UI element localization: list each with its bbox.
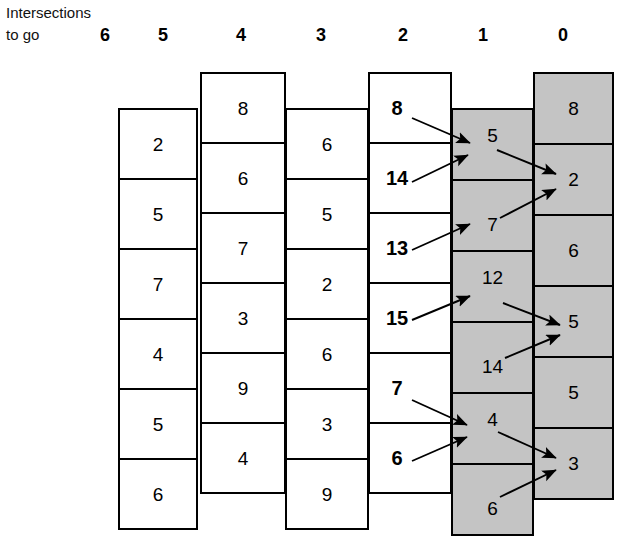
column-5-value-5: 6 <box>153 485 164 504</box>
column-4-cell-0[interactable]: 8 <box>200 72 286 144</box>
column-header-0: 0 <box>550 24 576 46</box>
column-0-value-3: 5 <box>568 312 579 331</box>
column-3: 652639 <box>285 108 369 528</box>
column-1-cell-5[interactable]: 6 <box>451 463 534 536</box>
column-3-value-4: 3 <box>322 415 333 434</box>
column-0-cell-3[interactable]: 5 <box>533 285 614 358</box>
column-2-cell-5[interactable]: 6 <box>368 422 452 494</box>
column-4-value-4: 9 <box>238 379 249 398</box>
column-3-value-2: 2 <box>322 275 333 294</box>
column-1-value-0: 5 <box>487 126 498 145</box>
column-header-6: 6 <box>92 24 118 46</box>
column-0-cell-0[interactable]: 8 <box>533 72 614 145</box>
column-5-value-3: 4 <box>153 345 164 364</box>
column-3-cell-5[interactable]: 9 <box>285 458 369 530</box>
column-0-cell-4[interactable]: 5 <box>533 356 614 429</box>
column-5-value-2: 7 <box>153 275 164 294</box>
column-5-cell-5[interactable]: 6 <box>118 458 198 530</box>
column-0-cell-1[interactable]: 2 <box>533 143 614 216</box>
column-5-value-4: 5 <box>153 415 164 434</box>
column-2-value-0: 8 <box>391 99 402 118</box>
column-1-cell-4[interactable]: 4 <box>451 392 534 465</box>
column-1-value-4: 4 <box>487 410 498 429</box>
column-4-value-1: 6 <box>238 169 249 188</box>
column-5-cell-1[interactable]: 5 <box>118 178 198 250</box>
column-2-value-4: 7 <box>391 379 402 398</box>
column-4: 867394 <box>200 72 286 492</box>
column-5-cell-3[interactable]: 4 <box>118 318 198 390</box>
column-header-3: 3 <box>308 24 334 46</box>
column-2-value-3: 15 <box>386 309 408 328</box>
column-4-value-5: 4 <box>238 449 249 468</box>
column-0-value-1: 2 <box>568 170 579 189</box>
column-4-cell-3[interactable]: 3 <box>200 282 286 354</box>
column-5-value-0: 2 <box>153 135 164 154</box>
diagram-canvas: Intersections to go 6543210 257456867394… <box>0 0 619 551</box>
column-2-value-2: 13 <box>386 239 408 258</box>
column-1: 57121446 <box>451 108 534 534</box>
column-2-cell-1[interactable]: 14 <box>368 142 452 214</box>
column-1-value-5: 6 <box>487 499 498 518</box>
column-0: 826553 <box>533 72 614 498</box>
column-header-4: 4 <box>228 24 254 46</box>
column-1-value-3: 14 <box>482 357 503 376</box>
column-3-value-1: 5 <box>322 205 333 224</box>
column-1-cell-2[interactable]: 12 <box>451 250 534 323</box>
column-1-cell-3[interactable]: 14 <box>451 321 534 394</box>
column-2-cell-0[interactable]: 8 <box>368 72 452 144</box>
column-2-cell-2[interactable]: 13 <box>368 212 452 284</box>
column-0-cell-2[interactable]: 6 <box>533 214 614 287</box>
column-5-cell-4[interactable]: 5 <box>118 388 198 460</box>
column-5-cell-0[interactable]: 2 <box>118 108 198 180</box>
column-header-5: 5 <box>150 24 176 46</box>
column-2-cell-4[interactable]: 7 <box>368 352 452 424</box>
column-3-value-5: 9 <box>322 485 333 504</box>
column-0-value-2: 6 <box>568 241 579 260</box>
column-1-cell-0[interactable]: 5 <box>451 108 534 181</box>
column-1-cell-1[interactable]: 7 <box>451 179 534 252</box>
column-4-cell-4[interactable]: 9 <box>200 352 286 424</box>
header-line-2: to go <box>6 26 39 44</box>
column-header-2: 2 <box>390 24 416 46</box>
column-4-cell-5[interactable]: 4 <box>200 422 286 494</box>
column-0-value-4: 5 <box>568 383 579 402</box>
column-1-value-2: 12 <box>482 268 503 287</box>
column-2-value-1: 14 <box>386 169 408 188</box>
column-3-value-3: 6 <box>322 345 333 364</box>
column-3-cell-1[interactable]: 5 <box>285 178 369 250</box>
column-0-cell-5[interactable]: 3 <box>533 427 614 500</box>
column-0-value-0: 8 <box>568 99 579 118</box>
column-5-value-1: 5 <box>153 205 164 224</box>
column-header-1: 1 <box>470 24 496 46</box>
column-3-cell-0[interactable]: 6 <box>285 108 369 180</box>
column-3-value-0: 6 <box>322 135 333 154</box>
column-4-value-2: 7 <box>238 239 249 258</box>
column-5: 257456 <box>118 108 198 528</box>
column-2-value-5: 6 <box>391 449 402 468</box>
column-1-value-1: 7 <box>487 215 498 234</box>
column-5-cell-2[interactable]: 7 <box>118 248 198 320</box>
column-3-cell-2[interactable]: 2 <box>285 248 369 320</box>
column-2: 814131576 <box>368 72 452 492</box>
column-4-cell-1[interactable]: 6 <box>200 142 286 214</box>
header-line-1: Intersections <box>6 4 91 22</box>
column-2-cell-3[interactable]: 15 <box>368 282 452 354</box>
column-3-cell-3[interactable]: 6 <box>285 318 369 390</box>
column-0-value-5: 3 <box>568 454 579 473</box>
column-4-value-0: 8 <box>238 99 249 118</box>
column-3-cell-4[interactable]: 3 <box>285 388 369 460</box>
column-4-cell-2[interactable]: 7 <box>200 212 286 284</box>
column-4-value-3: 3 <box>238 309 249 328</box>
